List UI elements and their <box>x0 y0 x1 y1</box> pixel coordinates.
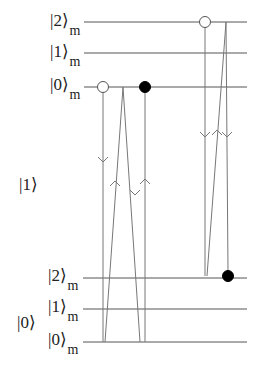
ket: |2⟩ <box>50 11 69 30</box>
transition-line <box>105 87 123 342</box>
subscript: m <box>70 23 81 38</box>
subscript: m <box>70 54 81 69</box>
subscript: m <box>68 342 79 357</box>
group-label-ground: |0⟩ <box>17 314 36 331</box>
arrow-down-icon <box>130 190 140 195</box>
open-circle-marker <box>200 17 211 28</box>
ket: |0⟩ <box>50 75 69 94</box>
subscript: m <box>70 87 81 102</box>
level-label-lower-0m: |0⟩m <box>48 331 78 358</box>
level-label-upper-2m: |2⟩m <box>50 12 80 39</box>
filled-circle-marker <box>140 82 151 93</box>
transitions <box>103 22 228 342</box>
level-label-lower-2m: |2⟩m <box>48 267 78 294</box>
ket: |2⟩ <box>48 266 67 285</box>
energy-level-diagram <box>0 0 260 369</box>
transition-line <box>207 22 226 276</box>
transition-line <box>226 22 228 271</box>
ket: |1⟩ <box>50 42 69 61</box>
group-label-excited: |1⟩ <box>19 176 38 193</box>
transition-line <box>123 87 140 342</box>
arrow-up-icon <box>212 130 222 135</box>
level-label-lower-1m: |1⟩m <box>48 298 78 325</box>
level-label-upper-0m: |0⟩m <box>50 76 80 103</box>
state-markers <box>98 17 234 282</box>
ket: |0⟩ <box>48 330 67 349</box>
arrow-up-icon <box>110 181 120 186</box>
filled-circle-marker <box>223 271 234 282</box>
open-circle-marker <box>98 82 109 93</box>
ket: |1⟩ <box>48 297 67 316</box>
subscript: m <box>68 309 79 324</box>
level-label-upper-1m: |1⟩m <box>50 43 80 70</box>
subscript: m <box>68 278 79 293</box>
